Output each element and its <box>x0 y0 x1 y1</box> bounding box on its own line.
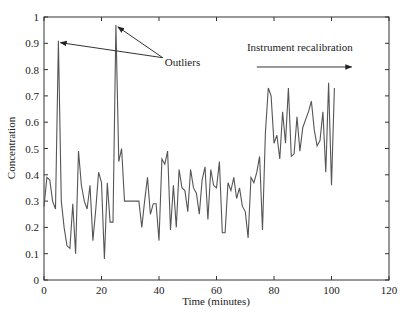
annotations: OutliersInstrument recalibration <box>60 27 353 68</box>
x-axis-label: Time (minutes) <box>182 295 250 308</box>
x-tick-label: 20 <box>96 284 108 296</box>
y-tick-label: 0 <box>34 274 40 286</box>
x-tick-label: 40 <box>154 284 166 296</box>
y-tick-label: 0.4 <box>25 169 39 181</box>
plot-area-border <box>44 17 389 280</box>
annotation-label: Instrument recalibration <box>247 41 353 53</box>
y-tick-label: 0.3 <box>25 195 39 207</box>
x-tick-label: 0 <box>41 284 47 296</box>
line-chart: 02040608010012000.10.20.30.40.50.60.70.8… <box>0 0 403 320</box>
y-tick-label: 0.8 <box>25 64 39 76</box>
x-tick-label: 120 <box>381 284 398 296</box>
y-tick-label: 0.5 <box>25 143 39 155</box>
x-tick-label: 100 <box>323 284 340 296</box>
plot-frame <box>44 17 389 280</box>
y-tick-label: 0.1 <box>25 248 39 260</box>
y-tick-label: 1 <box>34 11 40 23</box>
y-tick-label: 0.9 <box>25 37 39 49</box>
y-tick-label: 0.7 <box>25 90 39 102</box>
annotation-arrow <box>60 43 162 58</box>
annotation-arrow <box>118 27 163 58</box>
x-tick-label: 80 <box>269 284 281 296</box>
y-tick-label: 0.2 <box>25 221 39 233</box>
annotation-label: Outliers <box>165 56 200 68</box>
y-tick-label: 0.6 <box>25 116 39 128</box>
y-axis-label: Concentration <box>5 116 17 179</box>
axis-ticks: 02040608010012000.10.20.30.40.50.60.70.8… <box>25 11 398 296</box>
